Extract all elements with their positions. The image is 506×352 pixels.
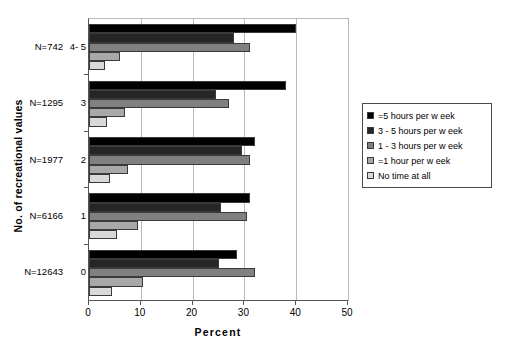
bar: [89, 108, 125, 117]
y-label-category: 4- 5: [66, 41, 86, 52]
y-label-category: 0: [66, 266, 86, 277]
legend-item-label: No time at all: [378, 171, 431, 181]
y-tick-label: N=126430: [18, 265, 86, 279]
y-label-count: N=1295: [29, 97, 63, 108]
bar: [89, 137, 255, 146]
legend-item: 3 - 5 hours per w eek: [367, 123, 487, 138]
bar: [89, 250, 237, 259]
bar: [89, 212, 247, 221]
legend-swatch-icon: [367, 172, 374, 179]
legend-swatch-icon: [367, 127, 374, 134]
bar: [89, 268, 255, 277]
x-tick-mark: [295, 300, 296, 305]
x-tick-label: 20: [172, 307, 212, 318]
bar: [89, 277, 143, 286]
y-tick-mark: [84, 244, 89, 245]
bar: [89, 99, 229, 108]
bar: [89, 43, 250, 52]
x-tick-label: 10: [120, 307, 160, 318]
x-axis-tick-labels: 01020304050: [0, 307, 506, 321]
y-tick-label: N=7424- 5: [18, 39, 86, 53]
x-tick-mark: [347, 300, 348, 305]
y-tick-label: N=19772: [18, 152, 86, 166]
y-axis-tick-labels: N=7424- 5N=12953N=19772N=61661N=126430: [18, 18, 86, 300]
x-tick-mark: [88, 300, 89, 305]
bar: [89, 117, 107, 126]
y-label-count: N=12643: [24, 266, 63, 277]
y-label-count: N=1977: [29, 154, 63, 165]
y-tick-mark: [84, 187, 89, 188]
x-tick-label: 30: [223, 307, 263, 318]
gridline: [296, 19, 297, 301]
bar: [89, 146, 242, 155]
bar: [89, 61, 105, 70]
x-tick-label: 40: [275, 307, 315, 318]
bar: [89, 155, 250, 164]
y-tick-label: N=12953: [18, 96, 86, 110]
legend-item: =5 hours per w eek: [367, 108, 487, 123]
y-label-category: 3: [66, 97, 86, 108]
bar: [89, 221, 138, 230]
bar-chart: No. of recreational values N=7424- 5N=12…: [0, 0, 506, 352]
x-tick-mark: [192, 300, 193, 305]
x-axis-title: Percent: [88, 326, 348, 338]
bar: [89, 259, 219, 268]
chart-legend: =5 hours per w eek3 - 5 hours per w eek1…: [362, 103, 492, 188]
y-label-category: 2: [66, 154, 86, 165]
legend-item-label: 1 - 3 hours per w eek: [378, 141, 463, 151]
y-label-count: N=742: [35, 41, 63, 52]
x-tick-mark: [140, 300, 141, 305]
bar: [89, 81, 286, 90]
x-tick-label: 0: [68, 307, 108, 318]
y-tick-label: N=61661: [18, 208, 86, 222]
bar: [89, 203, 221, 212]
bar: [89, 287, 112, 296]
x-tick-mark: [243, 300, 244, 305]
legend-item-label: =1 hour per w eek: [378, 156, 450, 166]
legend-swatch-icon: [367, 157, 374, 164]
bar: [89, 24, 296, 33]
y-label-category: 1: [66, 210, 86, 221]
legend-swatch-icon: [367, 142, 374, 149]
legend-item: =1 hour per w eek: [367, 153, 487, 168]
y-tick-mark: [84, 74, 89, 75]
legend-item: 1 - 3 hours per w eek: [367, 138, 487, 153]
x-axis-line: [88, 300, 348, 301]
y-label-count: N=6166: [29, 210, 63, 221]
legend-swatch-icon: [367, 112, 374, 119]
bar: [89, 52, 120, 61]
bar: [89, 33, 234, 42]
legend-item: No time at all: [367, 168, 487, 183]
bar: [89, 193, 250, 202]
bar: [89, 230, 117, 239]
y-tick-mark: [84, 131, 89, 132]
legend-item-label: =5 hours per w eek: [378, 111, 455, 121]
bar: [89, 165, 128, 174]
bar: [89, 174, 110, 183]
legend-item-label: 3 - 5 hours per w eek: [378, 126, 463, 136]
plot-area: [88, 18, 349, 301]
x-tick-label: 50: [327, 307, 367, 318]
bar: [89, 90, 216, 99]
